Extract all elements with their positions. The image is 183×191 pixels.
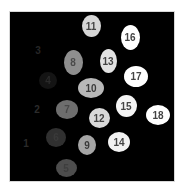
object-12: 12: [89, 108, 110, 128]
object-15: 15: [116, 95, 137, 117]
object-label-2: 2: [34, 104, 40, 115]
object-label: 16: [124, 32, 135, 43]
object-label: 15: [120, 101, 131, 112]
object-16: 16: [121, 25, 140, 50]
object-label: 18: [152, 110, 163, 121]
object-13: 13: [100, 49, 117, 73]
object-label: 10: [85, 83, 96, 94]
object-9: 9: [78, 135, 96, 155]
object-label-1: 1: [23, 138, 29, 149]
object-14: 14: [108, 132, 130, 152]
object-label: 11: [86, 21, 97, 32]
object-label: 8: [70, 57, 76, 68]
object-4: 4: [39, 72, 57, 89]
object-18: 18: [146, 105, 170, 125]
object-label: 6: [53, 132, 59, 143]
object-10: 10: [78, 78, 104, 98]
object-label: 12: [93, 113, 104, 124]
object-label: 14: [113, 137, 124, 148]
object-label: 4: [45, 75, 51, 86]
object-label-3: 3: [35, 45, 41, 56]
object-label: 13: [102, 56, 113, 67]
object-6: 6: [46, 128, 66, 147]
object-8: 8: [64, 50, 83, 75]
object-label: 9: [84, 140, 90, 151]
object-17: 17: [124, 66, 148, 87]
object-5: 5: [56, 159, 77, 177]
object-label: 7: [64, 104, 70, 115]
object-label: 17: [130, 71, 141, 82]
object-label: 5: [63, 163, 69, 174]
object-7: 7: [56, 100, 78, 119]
object-11: 11: [82, 15, 101, 37]
